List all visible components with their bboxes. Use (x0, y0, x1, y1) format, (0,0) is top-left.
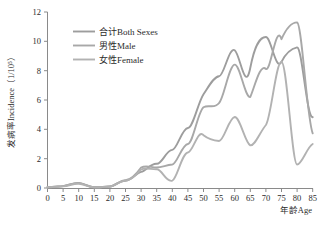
x-tick-label: 55 (215, 193, 224, 203)
x-tick-label: 10 (74, 193, 83, 203)
series-group (48, 22, 313, 187)
x-tick-label: 0 (45, 193, 49, 203)
x-tick-label: 85 (308, 193, 317, 203)
chart-canvas: 12 10 8 6 4 2 0 (0, 0, 329, 225)
x-tick-label: 5 (61, 193, 65, 203)
y-tick-label: 2 (37, 154, 41, 164)
x-tick-label: 80 (293, 193, 302, 203)
legend-label-male: 男性Male (99, 40, 136, 51)
x-tick-label: 15 (90, 193, 99, 203)
series-line-female (48, 62, 313, 188)
y-axis-title: 发病率Incidence（1/10⁵） (6, 52, 16, 148)
y-tick-label: 12 (33, 7, 42, 17)
x-tick-label: 40 (168, 193, 177, 203)
y-tick-label: 6 (37, 95, 41, 105)
x-tick-label: 70 (262, 193, 271, 203)
x-tick-label: 60 (230, 193, 239, 203)
x-tick-label: 20 (106, 193, 115, 203)
y-tick-label: 10 (33, 36, 42, 46)
legend-label-both-sexes: 合计Both Sexes (99, 26, 158, 37)
x-axis-title: 年龄Age (280, 205, 312, 215)
x-tick-label: 45 (184, 193, 193, 203)
chart-legend: 合计Both Sexes 男性Male 女性Female (73, 26, 158, 65)
x-tick-label: 65 (246, 193, 255, 203)
x-tick-label: 25 (121, 193, 130, 203)
incidence-by-age-chart: 12 10 8 6 4 2 0 (0, 0, 329, 225)
y-tick-label: 8 (37, 66, 41, 76)
y-tick-label: 0 (37, 183, 41, 193)
y-tick-label: 4 (37, 124, 42, 134)
y-tick-labels: 12 10 8 6 4 2 0 (33, 7, 42, 193)
x-tick-label: 75 (277, 193, 286, 203)
x-tickmarks (48, 189, 313, 193)
y-tickmarks (44, 12, 48, 188)
x-tick-label: 30 (137, 193, 146, 203)
legend-label-female: 女性Female (99, 54, 144, 65)
x-tick-label: 50 (199, 193, 208, 203)
x-tick-labels: 0 5 10 15 20 25 30 35 40 45 50 55 60 65 … (45, 193, 317, 203)
x-tick-label: 35 (152, 193, 161, 203)
